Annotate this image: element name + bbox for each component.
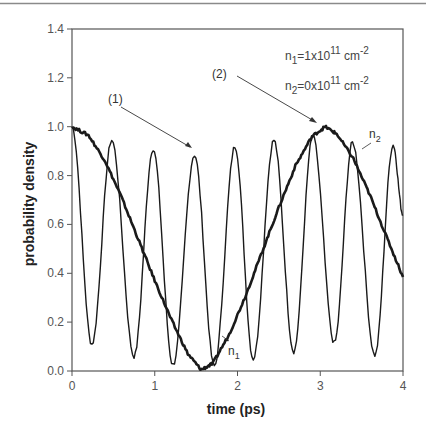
annotation-2: (2) [212, 67, 317, 123]
svg-text:n1: n1 [228, 344, 240, 361]
x-tick-label: 3 [317, 379, 324, 393]
x-axis: 0 1 2 3 4 [69, 371, 407, 393]
y-tick-label: 0.6 [47, 217, 64, 231]
y-axis-title: probability density [21, 142, 37, 267]
x-tick-label: 2 [234, 379, 241, 393]
y-tick-label: 0.2 [47, 315, 64, 329]
svg-text:n2: n2 [369, 127, 381, 144]
x-tick-label: 1 [151, 379, 158, 393]
x-axis-title: time (ps) [207, 401, 265, 417]
annotation-1-arrow [121, 107, 190, 147]
y-tick-label: 1.0 [47, 120, 64, 134]
legend: n1=1x1011 cm-2 n2=0x1011 cm-2 [285, 45, 369, 96]
annotation-2-label: (2) [212, 67, 227, 81]
arrowhead-icon [185, 142, 192, 148]
y-tick-label: 0.0 [47, 364, 64, 378]
legend-n1: n1=1x1011 cm-2 [285, 45, 369, 66]
x-tick-label: 0 [69, 379, 76, 393]
arrowhead-icon [309, 117, 317, 123]
data-series [72, 126, 403, 370]
annotation-1-label: (1) [108, 92, 123, 106]
y-tick-label: 0.8 [47, 169, 64, 183]
annotation-1: (1) [108, 92, 192, 148]
curve-label-n2: n2 [362, 127, 381, 149]
legend-n2: n2=0x1011 cm-2 [285, 75, 369, 96]
series-n1-line [72, 127, 403, 366]
y-axis: 0.0 0.2 0.4 0.6 0.8 1.0 1.2 1.4 [47, 22, 72, 378]
chart-canvas: 0.0 0.2 0.4 0.6 0.8 1.0 1.2 1.4 0 1 2 3 … [0, 0, 426, 435]
y-tick-label: 0.4 [47, 266, 64, 280]
x-tick-label: 4 [400, 379, 407, 393]
y-tick-label: 1.2 [47, 71, 64, 85]
y-tick-label: 1.4 [47, 22, 64, 36]
